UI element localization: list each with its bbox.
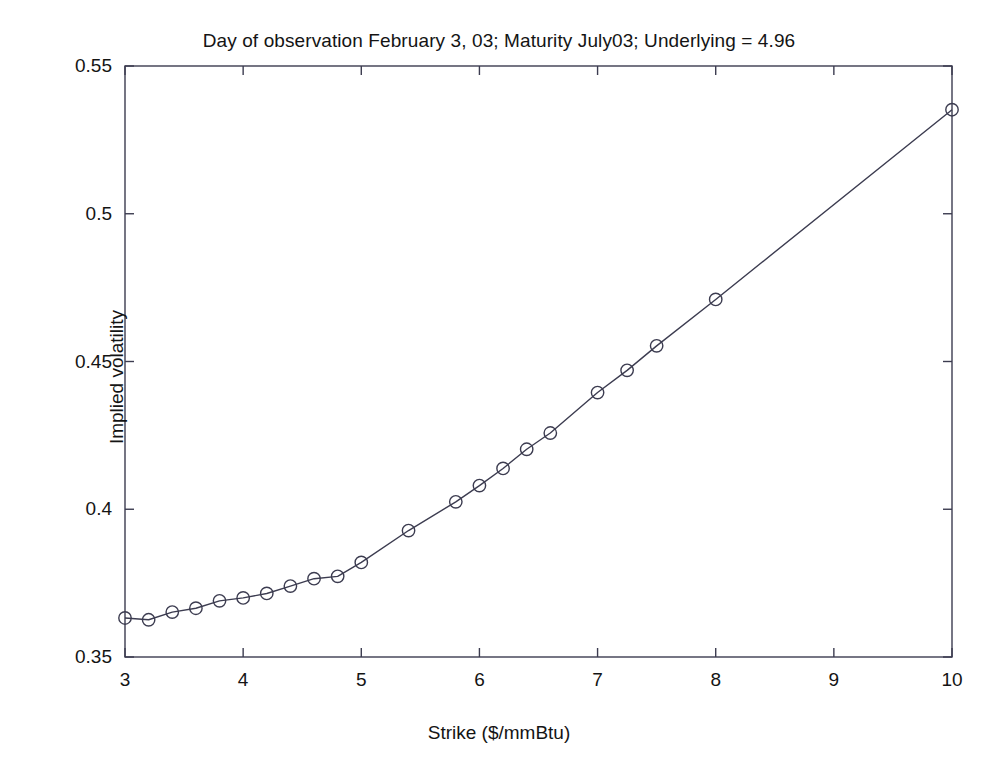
x-tick-label: 8 <box>710 669 721 691</box>
plot-area: Implied volatility <box>125 66 952 657</box>
y-tick-label: 0.45 <box>7 351 112 373</box>
x-tick-label: 9 <box>829 669 840 691</box>
x-tick-label: 6 <box>474 669 485 691</box>
y-tick-label: 0.35 <box>7 646 112 668</box>
y-axis-label: Implied volatility <box>106 167 128 587</box>
x-tick-label: 7 <box>592 669 603 691</box>
x-tick-label: 5 <box>356 669 367 691</box>
x-axis-label: Strike ($/mmBtu) <box>0 722 998 744</box>
chart-figure: Day of observation February 3, 03; Matur… <box>0 0 998 780</box>
x-tick-label: 3 <box>120 669 131 691</box>
x-tick-label: 10 <box>941 669 962 691</box>
y-tick-label: 0.55 <box>7 55 112 77</box>
y-tick-label: 0.5 <box>7 203 112 225</box>
y-tick-label: 0.4 <box>7 498 112 520</box>
x-tick-label: 4 <box>238 669 249 691</box>
